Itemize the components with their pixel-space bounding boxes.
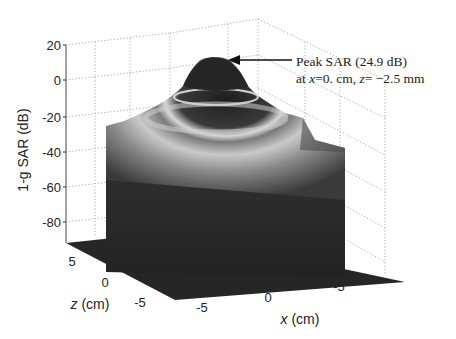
y-tick: -80 — [42, 215, 61, 230]
y-tick: 0 — [54, 73, 61, 88]
z-tick: 5 — [68, 254, 75, 269]
surface — [106, 57, 345, 278]
z-tick: 0 — [101, 275, 108, 290]
annotation-line1: Peak SAR (24.9 dB) — [296, 54, 407, 69]
x-axis-label: x (cm) — [280, 311, 320, 327]
x-tick: 0 — [264, 290, 271, 305]
y-tick: -60 — [42, 180, 61, 195]
annotation-line2: at x=0. cm, z= −2.5 mm — [296, 71, 425, 86]
z-tick: -5 — [134, 295, 146, 310]
z-axis-label: z (cm) — [70, 296, 110, 312]
x-tick: -5 — [196, 300, 208, 315]
y-tick: -20 — [42, 110, 61, 125]
peak-annotation: Peak SAR (24.9 dB) at x=0. cm, z= −2.5 m… — [228, 54, 425, 86]
sar-3d-surface-plot: 20 0 -20 -40 -60 -80 1-g SAR (dB) Peak S… — [0, 0, 456, 339]
y-axis-db: 20 0 -20 -40 -60 -80 1-g SAR (dB) — [15, 38, 66, 243]
y-tick: -40 — [42, 145, 61, 160]
y-axis-label: 1-g SAR (dB) — [15, 108, 31, 191]
y-tick: 20 — [47, 38, 61, 53]
x-tick: -5 — [333, 279, 345, 294]
